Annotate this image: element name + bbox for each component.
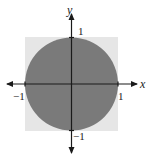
tick-label-y-neg: −1	[73, 130, 85, 142]
tick-label-x-neg: −1	[13, 90, 25, 102]
tick-label-x-pos: 1	[118, 90, 124, 102]
unit-circle-diagram: y x 1 −1 −1 1	[0, 0, 153, 165]
y-axis-label: y	[66, 3, 73, 17]
x-axis-label: x	[139, 77, 146, 91]
tick-label-y-pos: 1	[78, 25, 84, 37]
diagram-canvas: y x 1 −1 −1 1	[0, 0, 153, 165]
